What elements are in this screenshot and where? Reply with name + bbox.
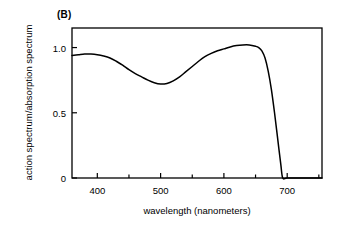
y-axis-ticks <box>72 48 77 178</box>
data-curve-line <box>72 45 322 179</box>
figure-panel-b: (B) action spectrum/absorption spectrum … <box>0 0 338 232</box>
axis-frame-rect <box>72 28 322 178</box>
x-axis-ticks <box>97 173 319 178</box>
axis-frame <box>72 28 322 178</box>
plot-area <box>0 0 338 232</box>
